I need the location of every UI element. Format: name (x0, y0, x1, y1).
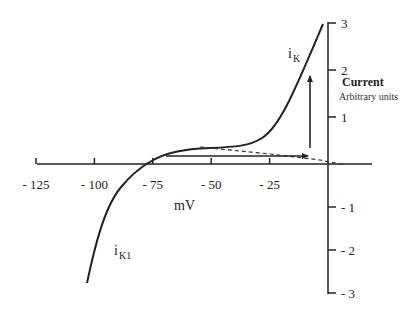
x-axis-unit-label: mV (174, 198, 195, 213)
svg-text:K: K (293, 53, 301, 64)
x-tick-label: - 25 (259, 177, 280, 192)
ik-label: i K (288, 46, 301, 64)
x-axis: - 125- 100- 75- 50- 25 (22, 158, 372, 192)
x-tick-label: - 50 (201, 177, 222, 192)
svg-text:K1: K1 (119, 250, 131, 261)
y-axis: 321- 1- 2- 3 (328, 16, 355, 301)
y-tick-label: 1 (341, 110, 348, 125)
x-tick-label: - 125 (22, 177, 49, 192)
total-current-curve (87, 24, 323, 283)
y-tick-label: 3 (341, 16, 348, 31)
ik1-label: i K1 (114, 243, 131, 261)
svg-text:i: i (114, 243, 118, 258)
y-tick-label: - 3 (341, 286, 355, 301)
y-axis-subtitle: Arbitrary units (339, 91, 398, 102)
x-tick-label: - 75 (143, 177, 164, 192)
y-axis-title: Current (342, 75, 384, 89)
x-tick-label: - 100 (81, 177, 108, 192)
svg-text:i: i (288, 46, 292, 61)
y-tick-label: - 2 (341, 243, 355, 258)
iv-curve-diagram: - 125- 100- 75- 50- 25 321- 1- 2- 3 mV C… (0, 0, 417, 315)
y-tick-label: - 1 (341, 200, 355, 215)
